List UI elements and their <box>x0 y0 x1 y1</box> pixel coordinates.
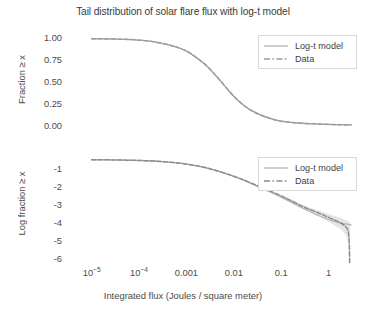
y-tick-label: -1 <box>54 164 62 174</box>
panel-log-tail-distribution: -6-5-4-3-2-1 Log fraction ≥ x Log-t mode… <box>0 148 366 280</box>
x-axis-ticks: 10−510−40.0010.010.11 <box>0 268 366 282</box>
legend-label-data: Data <box>295 54 314 64</box>
x-tick-label: 10−4 <box>130 268 148 278</box>
legend-bottom: Log-t model Data <box>258 157 357 191</box>
y-tick-label: 0.00 <box>44 121 62 131</box>
legend-label-data: Data <box>295 176 314 186</box>
x-tick-label: 0.01 <box>225 268 243 278</box>
y-tick-label: 1.00 <box>44 33 62 43</box>
y-axis-ticks-bottom: -6-5-4-3-2-1 <box>28 148 62 280</box>
legend-item-log-t-model[interactable]: Log-t model <box>263 39 350 52</box>
y-tick-label: -4 <box>54 218 62 228</box>
legend-item-data[interactable]: Data <box>263 174 350 187</box>
figure-root: Tail distribution of solar flare flux wi… <box>0 0 366 317</box>
x-tick-label: 0.1 <box>275 268 288 278</box>
panel-linear-tail-distribution: 0.000.250.500.751.00 Fraction ≥ x Log-t … <box>0 22 366 144</box>
y-tick-label: 0.50 <box>44 77 62 87</box>
y-tick-label: -5 <box>54 236 62 246</box>
legend-item-log-t-model[interactable]: Log-t model <box>263 161 350 174</box>
y-axis-ticks-top: 0.000.250.500.751.00 <box>28 22 62 144</box>
x-tick-label: 0.001 <box>175 268 198 278</box>
y-tick-label: -6 <box>54 254 62 264</box>
chart-title: Tail distribution of solar flare flux wi… <box>0 6 366 17</box>
y-tick-label: 0.75 <box>44 55 62 65</box>
legend-swatch-solid-icon <box>263 41 289 51</box>
x-axis-label: Integrated flux (Joules / square meter) <box>0 290 366 301</box>
legend-swatch-dashed-icon <box>263 54 289 64</box>
legend-swatch-solid-icon <box>263 163 289 173</box>
y-axis-label-bottom: Log fraction ≥ x <box>16 162 27 246</box>
y-axis-label-top: Fraction ≥ x <box>16 45 27 115</box>
x-tick-label: 1 <box>326 268 331 278</box>
legend-swatch-dashed-icon <box>263 176 289 186</box>
legend-label-log-t-model: Log-t model <box>295 163 343 173</box>
x-tick-label: 10−5 <box>83 268 101 278</box>
legend-top: Log-t model Data <box>258 35 357 69</box>
y-tick-label: -2 <box>54 182 62 192</box>
confidence-band <box>281 195 350 266</box>
y-tick-label: -3 <box>54 200 62 210</box>
y-tick-label: 0.25 <box>44 99 62 109</box>
legend-item-data[interactable]: Data <box>263 52 350 65</box>
legend-label-log-t-model: Log-t model <box>295 41 343 51</box>
